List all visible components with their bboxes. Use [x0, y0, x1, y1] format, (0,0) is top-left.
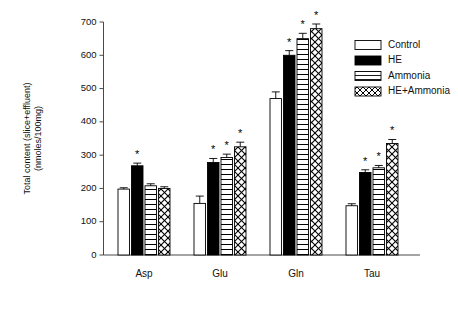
- bar: [284, 55, 296, 255]
- bar: [373, 168, 385, 255]
- significance-asterisk: *: [301, 18, 306, 30]
- significance-asterisk: *: [287, 36, 292, 48]
- bar: [346, 206, 358, 255]
- bar-chart: 0100200300400500600700 ********** AspGlu…: [0, 0, 458, 311]
- y-tick-label: 200: [81, 182, 97, 193]
- legend-label: Control: [388, 39, 420, 50]
- bar: [159, 188, 171, 255]
- y-tick-label: 600: [81, 49, 97, 60]
- x-category-label: Gln: [288, 268, 304, 279]
- significance-asterisk: *: [135, 148, 140, 160]
- legend-swatch: [355, 56, 381, 65]
- bar: [311, 29, 323, 255]
- bar: [297, 39, 309, 255]
- significance-asterisk: *: [390, 124, 395, 136]
- legend-label: Ammonia: [388, 70, 431, 81]
- y-tick-label: 0: [91, 249, 96, 260]
- x-category-label: Tau: [364, 268, 380, 279]
- legend-label: HE+Ammonia: [388, 85, 450, 96]
- bar: [208, 162, 220, 255]
- y-tick-label: 100: [81, 215, 97, 226]
- chart-canvas: 0100200300400500600700 ********** AspGlu…: [0, 0, 458, 311]
- significance-asterisk: *: [225, 139, 230, 151]
- significance-asterisk: *: [314, 9, 319, 21]
- bar: [235, 147, 247, 255]
- bar: [194, 203, 206, 255]
- significance-asterisk: *: [363, 155, 368, 167]
- x-category-label: Glu: [212, 268, 228, 279]
- bar: [145, 186, 157, 255]
- y-tick-label: 500: [81, 82, 97, 93]
- x-category-label: Asp: [135, 268, 153, 279]
- y-tick-label: 400: [81, 115, 97, 126]
- significance-asterisk: *: [211, 143, 216, 155]
- legend-swatch: [355, 41, 381, 50]
- y-tick-label: 700: [81, 16, 97, 27]
- legend-label: HE: [388, 54, 402, 65]
- bar: [387, 143, 399, 255]
- legend-swatch: [355, 87, 381, 96]
- bar: [270, 99, 282, 255]
- y-tick-label: 300: [81, 149, 97, 160]
- bar: [132, 166, 144, 255]
- bar: [118, 189, 130, 255]
- bar: [360, 172, 372, 255]
- significance-asterisk: *: [238, 127, 243, 139]
- legend-swatch: [355, 72, 381, 81]
- bar: [221, 157, 233, 255]
- significance-asterisk: *: [377, 150, 382, 162]
